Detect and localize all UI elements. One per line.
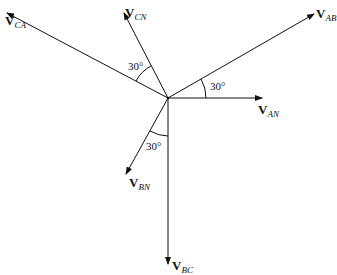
phasor-vab-arrow [168, 14, 314, 98]
angle-label-vca-vcn: 30° [128, 60, 143, 72]
label-vab: VAB [316, 6, 336, 23]
label-vca: VCA [5, 13, 26, 30]
label-vbc: VBC [172, 258, 193, 275]
label-vcn: VCN [125, 5, 146, 22]
phasor-vcn-arrow [124, 13, 168, 98]
label-van: VAN [258, 102, 279, 119]
label-vbn: VBN [129, 175, 150, 192]
phasor-diagram [0, 0, 337, 275]
phasor-vca-arrow [7, 13, 168, 98]
angle-arc-van-vab [201, 79, 206, 98]
angle-label-vbn-vbc: 30° [146, 140, 161, 152]
angle-label-van-vab: 30° [210, 80, 225, 92]
phasor-vbn-arrow [126, 98, 168, 174]
angle-arc-vbn-vbc [150, 131, 168, 136]
